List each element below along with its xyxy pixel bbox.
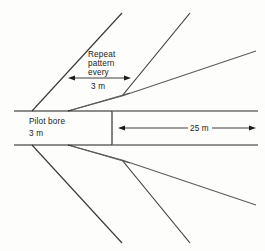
upper-fan-line-3 xyxy=(122,13,190,96)
repeat-spacing-value: 3 m xyxy=(91,82,105,91)
repeat-pattern-arrow-head-right xyxy=(124,76,131,81)
upper-fan-line-4 xyxy=(122,51,256,96)
repeat-pattern-arrow-head-left xyxy=(68,76,75,81)
repeat-label-line2: pattern xyxy=(88,59,115,68)
lower-fan-line-1 xyxy=(32,145,122,243)
tunnel-length-arrow-head-right xyxy=(249,126,256,131)
tunnel-length-dimension: 25 m xyxy=(118,124,256,133)
pilot-bore-label: Pilot bore 3 m xyxy=(29,117,65,138)
upper-fan-group xyxy=(32,13,256,111)
repeat-label-line3: every xyxy=(88,68,110,77)
tunnel-length-arrow-head-left xyxy=(118,126,125,131)
pilot-bore-name: Pilot bore xyxy=(29,117,65,126)
engineering-diagram: Repeat pattern every 3 m Pilot bore 3 m … xyxy=(0,0,265,251)
lower-fan-line-3 xyxy=(122,160,190,243)
repeat-pattern-label: Repeat pattern every 3 m xyxy=(88,50,116,91)
tunnel-length-value: 25 m xyxy=(190,124,209,133)
repeat-label-line1: Repeat xyxy=(88,50,116,59)
pilot-bore-value: 3 m xyxy=(29,129,43,138)
lower-fan-group xyxy=(32,145,256,243)
lower-fan-line-4 xyxy=(122,160,256,205)
diagram-canvas: Repeat pattern every 3 m Pilot bore 3 m … xyxy=(0,0,265,251)
upper-fan-line-2-extension xyxy=(68,93,130,111)
lower-fan-line-2-extension xyxy=(68,145,130,163)
